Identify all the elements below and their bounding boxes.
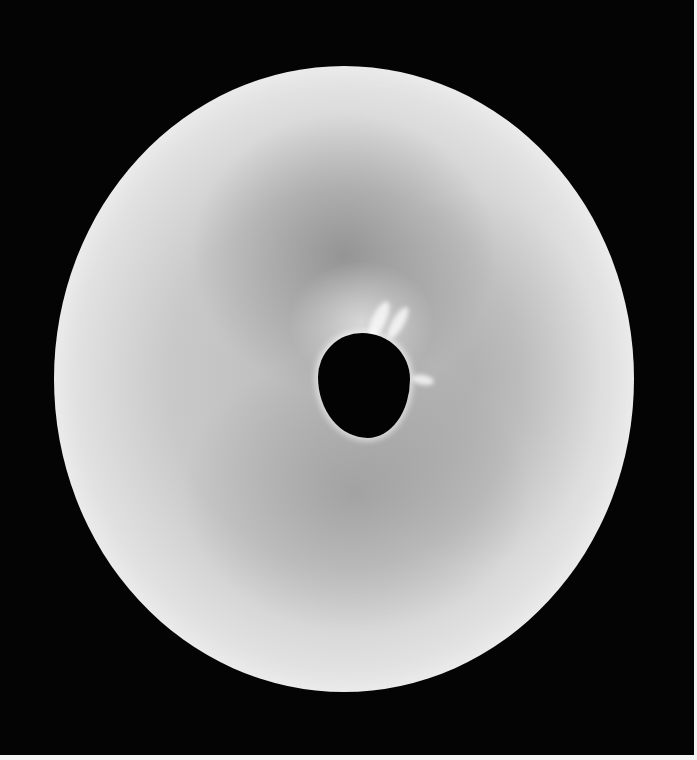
photograph — [0, 0, 694, 755]
